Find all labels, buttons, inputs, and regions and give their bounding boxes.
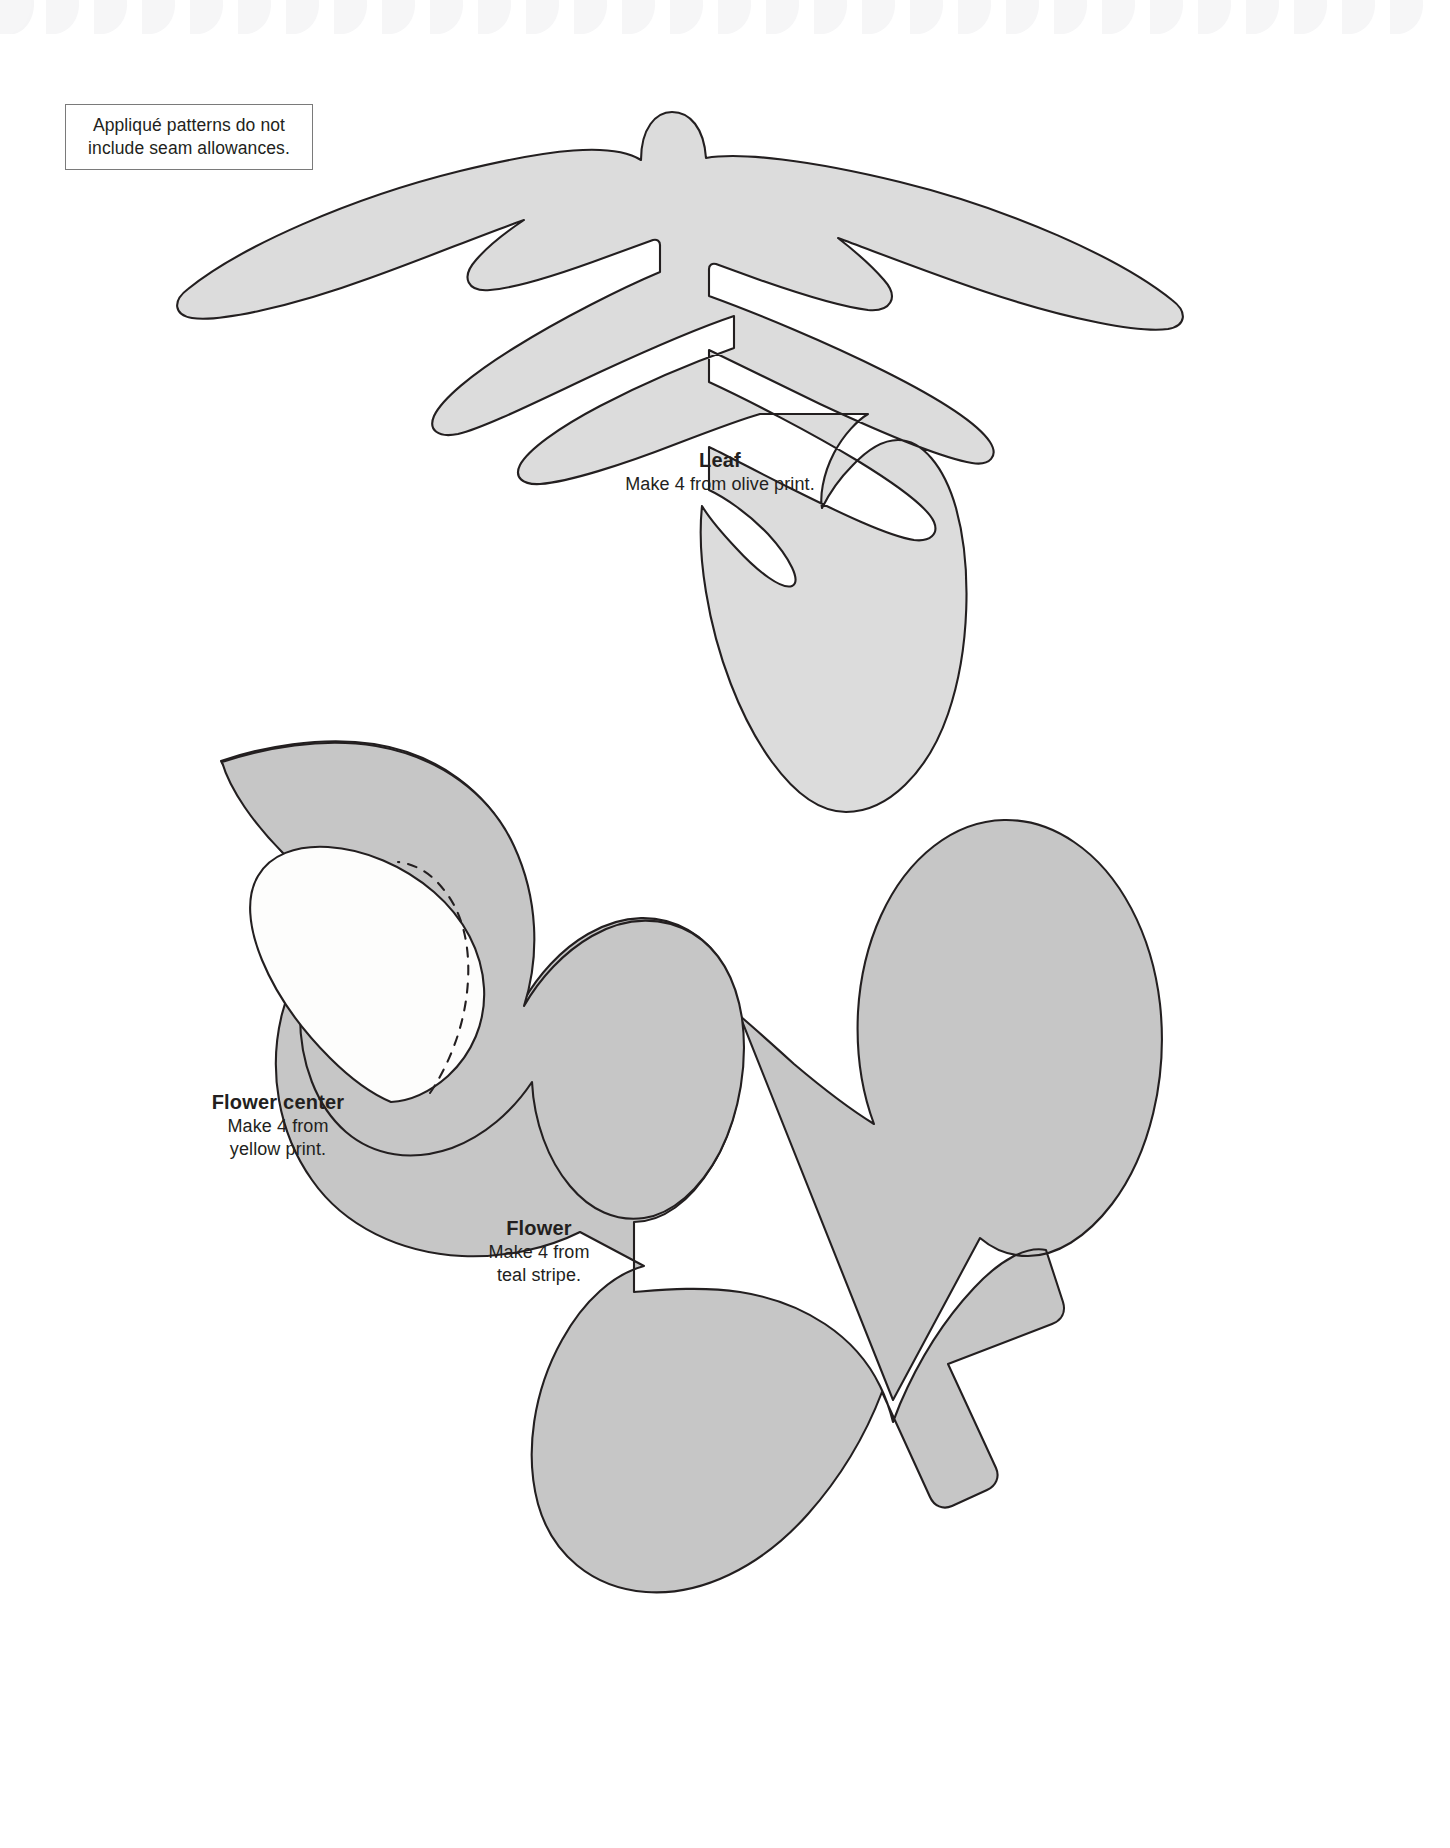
seam-allowance-note: Appliqué patterns do not include seam al… [65, 104, 313, 170]
note-line-1: Appliqué patterns do not [93, 115, 285, 135]
seam-allowance-note-text: Appliqué patterns do not include seam al… [80, 114, 298, 160]
pattern-sheet-page: Appliqué patterns do not include seam al… [0, 0, 1450, 1848]
note-line-2: include seam allowances. [88, 138, 290, 158]
leaf-shape [177, 112, 1183, 812]
pattern-artwork [0, 0, 1450, 1848]
